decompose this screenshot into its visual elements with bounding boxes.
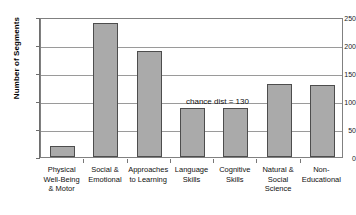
plot-area: chance dist = 130 <box>40 18 343 158</box>
x-category-label-line: Language <box>170 165 213 175</box>
gridline <box>41 47 342 48</box>
x-category-label-line: Physical <box>40 165 83 175</box>
x-tick-mark <box>83 159 84 163</box>
x-tick-mark <box>213 159 214 163</box>
y-axis-title: Number of Segments <box>11 8 23 108</box>
x-category-label: Natural &SocialScience <box>256 165 299 194</box>
x-category-label: Social &Emotional <box>83 165 126 184</box>
bar <box>267 84 292 157</box>
x-category-label-line: Science <box>256 184 299 194</box>
x-tick-mark <box>170 159 171 163</box>
x-category-label: LanguageSkills <box>170 165 213 184</box>
x-category-label-line: Emotional <box>83 175 126 185</box>
x-category-label-line: & Motor <box>40 184 83 194</box>
x-category-label-line: Cognitive <box>213 165 256 175</box>
x-category-label-line: Educational <box>300 175 343 185</box>
bar <box>310 85 335 157</box>
bar <box>180 108 205 157</box>
y-tick-mark <box>36 158 40 159</box>
x-category-label: Non-Educational <box>300 165 343 184</box>
x-category-label-line: Social <box>256 175 299 185</box>
x-category-label-line: Approaches <box>127 165 170 175</box>
bar <box>93 23 118 157</box>
x-category-label-line: Social & <box>83 165 126 175</box>
x-category-label: CognitiveSkills <box>213 165 256 184</box>
x-category-label-line: Well-Being <box>40 175 83 185</box>
x-category-label-line: to Learning <box>127 175 170 185</box>
bar <box>137 51 162 157</box>
x-category-label-line: Skills <box>170 175 213 185</box>
chance-distribution-annotation: chance dist = 130 <box>186 97 249 107</box>
x-tick-mark <box>300 159 301 163</box>
bar-chart: Number of Segments 050100150200250 chanc… <box>0 0 356 215</box>
x-tick-mark <box>256 159 257 163</box>
x-category-label: PhysicalWell-Being& Motor <box>40 165 83 194</box>
x-category-label: Approachesto Learning <box>127 165 170 184</box>
x-category-label-line: Skills <box>213 175 256 185</box>
x-category-label-line: Non- <box>300 165 343 175</box>
bar <box>50 146 75 157</box>
x-tick-mark <box>127 159 128 163</box>
gridline <box>41 75 342 76</box>
x-category-label-line: Natural & <box>256 165 299 175</box>
bar <box>223 108 248 157</box>
